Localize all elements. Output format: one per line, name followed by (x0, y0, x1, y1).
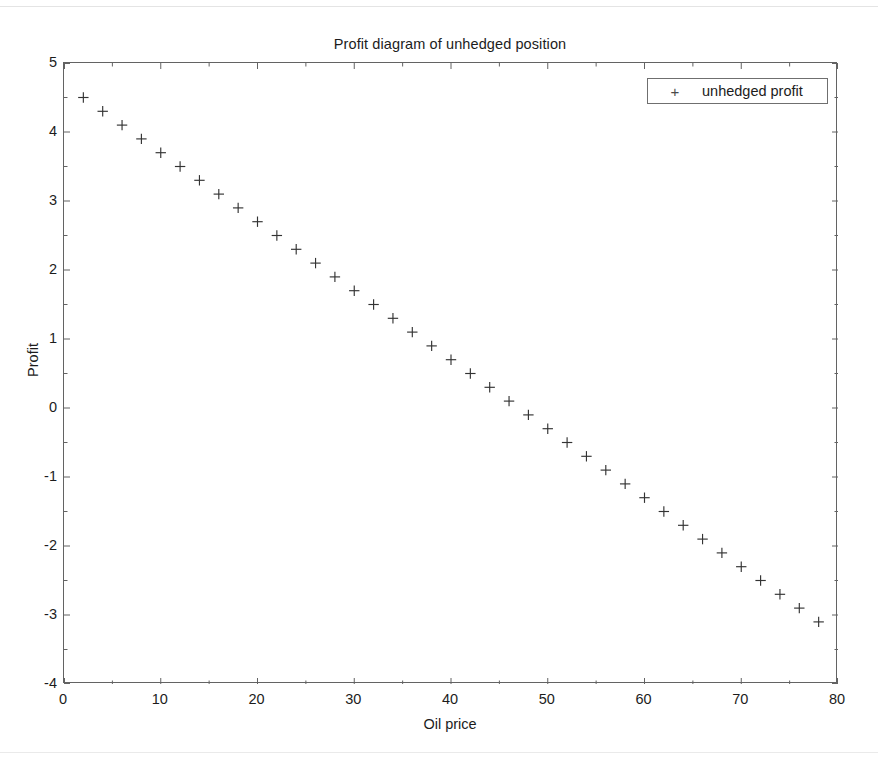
plot-svg (64, 63, 838, 684)
data-point (98, 106, 108, 116)
data-point (736, 562, 746, 572)
y-tick-label: 5 (17, 55, 57, 70)
data-point (330, 272, 340, 282)
data-point (349, 286, 359, 296)
data-point (465, 368, 475, 378)
data-point (252, 217, 262, 227)
y-tick-label: -2 (17, 538, 57, 553)
x-tick-label: 40 (425, 692, 475, 707)
data-point (407, 327, 417, 337)
y-tick-label: -4 (17, 676, 57, 691)
x-tick-label: 0 (38, 692, 88, 707)
data-point (214, 189, 224, 199)
tick-marks (64, 63, 838, 684)
legend-entry-label: unhedged profit (702, 83, 803, 99)
data-point (136, 134, 146, 144)
x-axis-tick-labels: 01020304050607080 (63, 692, 837, 714)
data-point (388, 313, 398, 323)
figure-canvas: Profit diagram of unhedged position 5432… (0, 0, 878, 765)
data-point (117, 120, 127, 130)
data-point (581, 451, 591, 461)
data-point (775, 589, 785, 599)
scan-artifact-bottom (0, 752, 878, 753)
data-point (291, 244, 301, 254)
data-point (523, 410, 533, 420)
data-point (272, 230, 282, 240)
y-tick-label: 4 (17, 124, 57, 139)
y-axis-label: Profit (25, 320, 41, 400)
data-point (639, 493, 649, 503)
x-tick-label: 70 (715, 692, 765, 707)
x-tick-label: 30 (328, 692, 378, 707)
data-point (78, 92, 88, 102)
data-point (175, 161, 185, 171)
scan-artifact-top (0, 6, 878, 7)
x-axis-label: Oil price (63, 716, 837, 732)
data-point (446, 355, 456, 365)
data-point-markers (78, 92, 824, 627)
x-tick-label: 80 (812, 692, 862, 707)
data-point (156, 148, 166, 158)
data-point (543, 424, 553, 434)
data-point (697, 534, 707, 544)
data-point (601, 465, 611, 475)
x-tick-label: 10 (135, 692, 185, 707)
data-point (813, 617, 823, 627)
data-point (194, 175, 204, 185)
y-tick-label: -1 (17, 469, 57, 484)
chart-title: Profit diagram of unhedged position (63, 36, 837, 52)
y-tick-label: 3 (17, 193, 57, 208)
data-point (717, 548, 727, 558)
data-point (504, 396, 514, 406)
data-point (620, 479, 630, 489)
x-tick-label: 20 (232, 692, 282, 707)
data-point (368, 299, 378, 309)
data-point (755, 575, 765, 585)
data-point (562, 437, 572, 447)
y-tick-label: 0 (17, 400, 57, 415)
data-point (794, 603, 804, 613)
y-tick-label: 2 (17, 262, 57, 277)
data-point (485, 382, 495, 392)
data-point (233, 203, 243, 213)
y-tick-label: -3 (17, 607, 57, 622)
x-tick-label: 60 (619, 692, 669, 707)
data-point (678, 520, 688, 530)
legend-box: + unhedged profit (647, 78, 828, 104)
x-tick-label: 50 (522, 692, 572, 707)
data-point (310, 258, 320, 268)
data-point (659, 506, 669, 516)
legend-marker-plus-icon: + (648, 84, 702, 99)
data-point (426, 341, 436, 351)
plot-area (63, 62, 837, 683)
